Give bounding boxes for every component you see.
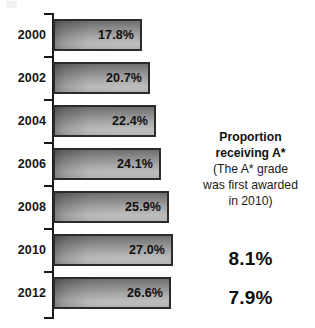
axis-tick [44,13,53,15]
bar-value-label: 22.4% [112,107,148,135]
bar[interactable]: 26.6% [53,277,171,309]
axis-tick [44,185,53,187]
bar[interactable]: 27.0% [53,234,173,266]
annotation-note-line-1: (The A* grade [186,161,315,177]
bar-value-label: 17.8% [98,21,134,49]
annotation-note: (The A* grade was first awarded in 2010) [186,161,315,209]
bar[interactable]: 17.8% [53,19,142,51]
annotation-figure-2010: 8.1% [186,248,315,270]
bar-category-label: 2008 [0,189,46,225]
bar[interactable]: 25.9% [53,191,169,223]
axis-tick [44,56,53,58]
bar-value-label: 24.1% [117,150,153,178]
bar[interactable]: 22.4% [53,105,156,137]
axis-tick [44,317,53,319]
bar-category-label: 2000 [0,17,46,53]
axis-tick [44,271,53,273]
bar-value-label: 26.6% [127,279,163,307]
bar[interactable]: 20.7% [53,62,150,94]
bar-category-label: 2012 [0,275,46,311]
bar-value-label: 20.7% [106,64,142,92]
bar-category-label: 2006 [0,146,46,182]
bar-value-label: 27.0% [129,236,165,264]
axis-tick [44,228,53,230]
annotation-note-line-2: was first awarded [186,177,315,193]
chart-plot-area: 2000 17.8% 2002 20.7% 2004 22.4% 2006 24… [0,0,185,328]
annotation-panel: Proportion receiving A* (The A* grade wa… [186,0,315,328]
bar-chart-figure: 2000 17.8% 2002 20.7% 2004 22.4% 2006 24… [0,0,315,328]
bar-category-label: 2002 [0,60,46,96]
annotation-figure-2012: 7.9% [186,287,315,309]
bar[interactable]: 24.1% [53,148,161,180]
annotation-note-line-3: in 2010) [186,193,315,209]
axis-tick [44,99,53,101]
bar-value-label: 25.9% [125,193,161,221]
annotation-heading-line-2: receiving A* [186,145,315,161]
axis-tick [44,142,53,144]
bar-category-label: 2010 [0,232,46,268]
annotation-heading-line-1: Proportion [186,129,315,145]
annotation-heading: Proportion receiving A* [186,129,315,161]
bar-category-label: 2004 [0,103,46,139]
